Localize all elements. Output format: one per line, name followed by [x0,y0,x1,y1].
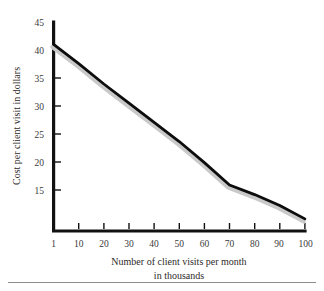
x-tick-label-20: 20 [99,239,109,249]
y-tick-label-15: 15 [35,186,45,196]
y-tick-label-30: 30 [35,102,45,112]
x-tick-label-100: 100 [298,239,313,249]
x-tick-label-50: 50 [175,239,185,249]
y-axis-title: Cost per client visit in dollars [11,67,22,185]
x-tick-label-90: 90 [274,239,284,249]
x-tick-label-60: 60 [200,239,210,249]
chart-figure: 45 40 35 30 25 20 15 [0,0,324,291]
x-axis-title-line1: Number of client visits per month [111,256,246,267]
y-tick-label-35: 35 [35,74,45,84]
x-tick-label-40: 40 [149,239,159,249]
x-axis-title-line2: in thousands [154,270,204,281]
y-tick-label-20: 20 [35,158,45,168]
y-tick-label-25: 25 [35,130,45,140]
bottom-divider-rule [8,282,316,283]
y-tick-label-45: 45 [35,18,45,28]
y-tick-label-40: 40 [35,46,45,56]
x-tick-label-80: 80 [250,239,260,249]
x-tick-label-1: 1 [51,239,56,249]
x-tick-label-30: 30 [124,239,134,249]
line-chart-canvas: 45 40 35 30 25 20 15 [0,0,324,291]
x-tick-label-10: 10 [74,239,84,249]
x-tick-label-70: 70 [225,239,235,249]
